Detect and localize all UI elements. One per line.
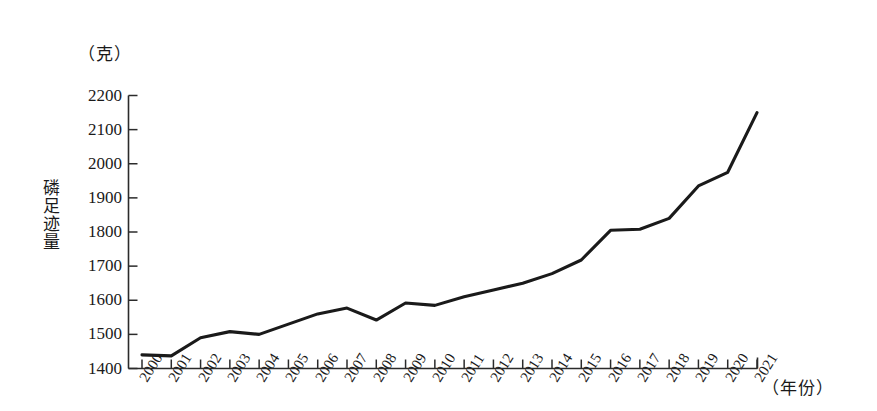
plot-area [0, 0, 877, 411]
line-chart: （克） 磷 足 迹 量 1400150016001700180019002000… [0, 0, 877, 411]
axis-lines [129, 96, 758, 369]
data-series-line [142, 113, 757, 356]
y-axis-ticks [129, 96, 138, 369]
x-axis-ticks [142, 360, 757, 369]
